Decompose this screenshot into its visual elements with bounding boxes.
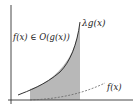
lambda-g-label: λg(x) [81, 18, 106, 28]
relation-label: f(x) ∈ O(g(x)) [12, 32, 70, 42]
f-label: f(x) [106, 82, 122, 92]
big-o-diagram: λg(x) f(x) ∈ O(g(x)) f(x) [0, 0, 137, 109]
